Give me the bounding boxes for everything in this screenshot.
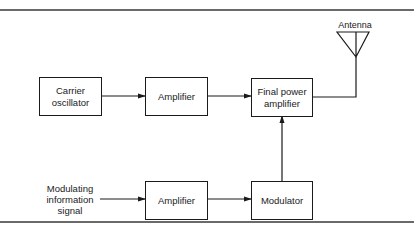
antenna-label: Antenna xyxy=(330,20,380,31)
block-amplifier-bottom: Amplifier xyxy=(145,181,208,220)
block-label: Modulator xyxy=(261,195,303,207)
block-amplifier-top: Amplifier xyxy=(145,77,208,116)
block-carrier-oscillator: Carrier oscillator xyxy=(39,77,102,116)
wire-final-to-antenna xyxy=(312,57,356,97)
antenna-icon xyxy=(337,32,369,57)
block-modulator: Modulator xyxy=(251,181,313,220)
block-label: Final power amplifier xyxy=(257,86,306,110)
block-final-power-amplifier: Final power amplifier xyxy=(251,78,313,117)
block-label: Carrier oscillator xyxy=(52,85,90,109)
block-label: Amplifier xyxy=(158,91,195,103)
block-label: Amplifier xyxy=(158,195,195,207)
input-signal-label: Modulating information signal xyxy=(38,183,102,216)
